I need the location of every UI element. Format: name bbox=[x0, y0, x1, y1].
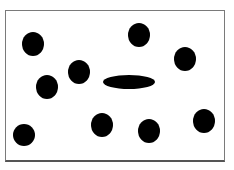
circle-dot bbox=[13, 124, 35, 146]
circle-dot bbox=[193, 109, 215, 133]
circle-dot bbox=[22, 32, 44, 56]
circle-dot bbox=[91, 113, 113, 137]
circle-dot bbox=[138, 119, 160, 143]
center-ellipse bbox=[103, 75, 155, 89]
circle-dot bbox=[128, 23, 150, 47]
circle-dot bbox=[68, 60, 90, 84]
shapes-canvas bbox=[0, 0, 234, 170]
circle-dot bbox=[174, 47, 196, 71]
circle-dot bbox=[36, 75, 58, 99]
